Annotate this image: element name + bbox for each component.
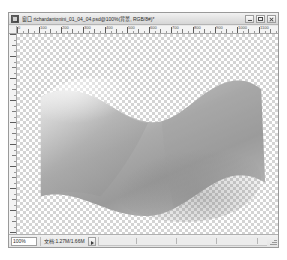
ruler-tick-minor <box>12 199 16 200</box>
plane-highlight <box>37 78 156 145</box>
ruler-tick-minor <box>116 29 117 33</box>
ruler-tick-minor <box>166 31 167 33</box>
window-title-bar[interactable]: 窗口 richardantonini_01_04_04.psd@100%(背景,… <box>9 13 278 25</box>
ruler-tick-major <box>10 34 16 35</box>
ruler-tick-major <box>10 56 16 57</box>
ruler-tick-minor <box>12 45 16 46</box>
ruler-tick-minor <box>270 29 271 33</box>
ruler-label: 500 <box>128 26 135 30</box>
ruler-tick-minor <box>122 31 123 33</box>
ruler-tick-minor <box>14 73 16 74</box>
ruler-tick-minor <box>232 31 233 33</box>
ruler-tick-minor <box>199 31 200 33</box>
ruler-tick-major <box>10 232 16 233</box>
window-title: 窗口 richardantonini_01_04_04.psd@100%(背景,… <box>22 15 245 21</box>
ruler-label: 600 <box>150 26 157 30</box>
ruler-tick-minor <box>34 31 35 33</box>
close-button[interactable] <box>267 15 276 23</box>
ruler-tick-minor <box>221 31 222 33</box>
photoshop-document-icon <box>11 15 19 23</box>
zoom-level-input[interactable]: 100% <box>11 237 37 246</box>
ruler-tick-minor <box>50 29 51 33</box>
resize-grip[interactable] <box>269 237 277 246</box>
status-track-notch <box>136 238 137 244</box>
app-root: 窗口 richardantonini_01_04_04.psd@100%(背景,… <box>0 0 287 260</box>
ruler-tick-minor <box>204 29 205 33</box>
status-divider <box>40 237 41 246</box>
ruler-tick-minor <box>12 89 16 90</box>
window-controls <box>245 15 276 23</box>
status-bar: 100% 文档:1.27M/1.66M <box>9 234 278 247</box>
ruler-tick-minor <box>100 31 101 33</box>
ruler-tick-minor <box>56 31 57 33</box>
ruler-tick-major <box>10 210 16 211</box>
ruler-label: 700 <box>172 26 179 30</box>
minimize-button[interactable] <box>245 15 254 23</box>
status-track-notch <box>176 238 177 244</box>
ruler-tick-major <box>10 144 16 145</box>
ruler-tick-major <box>10 166 16 167</box>
ruler-tick-minor <box>23 31 24 33</box>
ruler-tick-minor <box>155 31 156 33</box>
ruler-tick-minor <box>67 31 68 33</box>
status-track-notch <box>257 238 258 244</box>
ruler-tick-minor <box>14 106 16 107</box>
ruler-label: 1100 <box>260 26 269 30</box>
ruler-tick-minor <box>89 31 90 33</box>
ruler-tick-minor <box>14 161 16 162</box>
ruler-label: 100 <box>40 26 47 30</box>
plane-shadow <box>106 135 261 222</box>
document-size-info: 文档:1.27M/1.66M <box>44 238 85 245</box>
ruler-tick-minor <box>14 95 16 96</box>
ruler-tick-minor <box>14 205 16 206</box>
ruler-tick-minor <box>111 31 112 33</box>
ruler-tick-minor <box>14 194 16 195</box>
ruler-tick-minor <box>45 31 46 33</box>
ruler-tick-minor <box>14 51 16 52</box>
ruler-tick-minor <box>14 216 16 217</box>
ruler-tick-minor <box>144 31 145 33</box>
ruler-label: 0 <box>18 26 20 30</box>
ruler-tick-minor <box>12 133 16 134</box>
ruler-tick-minor <box>28 29 29 33</box>
ruler-tick-minor <box>14 183 16 184</box>
ruler-tick-minor <box>12 177 16 178</box>
ruler-tick-minor <box>12 67 16 68</box>
ruler-label: 1000 <box>238 26 247 30</box>
ruler-tick-minor <box>14 128 16 129</box>
ruler-tick-minor <box>177 31 178 33</box>
maximize-button[interactable] <box>256 15 265 23</box>
ruler-tick-minor <box>243 31 244 33</box>
ruler-tick-minor <box>276 31 277 33</box>
ruler-origin-corner[interactable] <box>9 26 17 34</box>
ruler-tick-minor <box>14 62 16 63</box>
ruler-tick-minor <box>72 29 73 33</box>
ruler-tick-minor <box>12 221 16 222</box>
waving-plane-artwork[interactable] <box>17 34 278 234</box>
status-expand-button[interactable] <box>88 237 96 246</box>
ruler-tick-minor <box>160 29 161 33</box>
ruler-tick-major <box>10 188 16 189</box>
ruler-tick-minor <box>14 84 16 85</box>
ruler-tick-minor <box>226 29 227 33</box>
ruler-tick-minor <box>94 29 95 33</box>
image-editor-window: 窗口 richardantonini_01_04_04.psd@100%(背景,… <box>8 12 279 248</box>
ruler-label: 900 <box>216 26 223 30</box>
ruler-tick-major <box>10 78 16 79</box>
ruler-tick-major <box>10 100 16 101</box>
ruler-tick-minor <box>138 29 139 33</box>
ruler-tick-minor <box>133 31 134 33</box>
ruler-tick-minor <box>14 227 16 228</box>
ruler-tick-minor <box>254 31 255 33</box>
vertical-ruler[interactable] <box>9 34 17 234</box>
horizontal-ruler[interactable]: 010020030040050060070080090010001100 <box>17 26 278 34</box>
status-scroll-track[interactable] <box>98 237 267 246</box>
status-track-notch <box>216 238 217 244</box>
ruler-tick-minor <box>12 111 16 112</box>
ruler-tick-minor <box>14 139 16 140</box>
ruler-tick-minor <box>188 31 189 33</box>
ruler-label: 400 <box>106 26 113 30</box>
canvas-viewport[interactable] <box>17 34 278 234</box>
ruler-label: 200 <box>62 26 69 30</box>
ruler-tick-minor <box>14 172 16 173</box>
